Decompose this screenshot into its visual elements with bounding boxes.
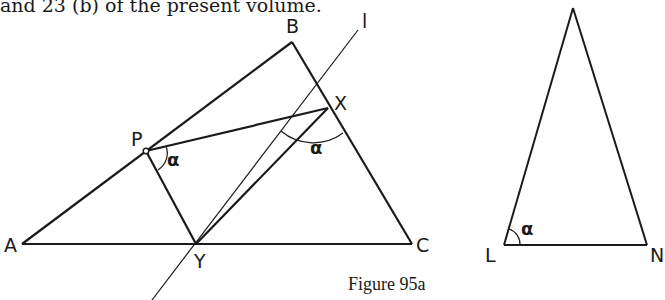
- angle-arc-l: [509, 229, 520, 245]
- label-a: A: [4, 234, 17, 256]
- side-ab: [22, 42, 292, 244]
- label-y: Y: [193, 250, 206, 272]
- point-p-marker: [143, 148, 149, 154]
- label-line-l: l: [362, 10, 367, 32]
- triangle-pxy: [146, 108, 328, 244]
- label-n: N: [650, 244, 664, 266]
- segment-xy: [196, 108, 328, 244]
- alpha-label-x: α: [310, 137, 322, 158]
- label-c: C: [416, 234, 429, 256]
- triangle-lnt: [504, 8, 647, 245]
- label-l: L: [485, 244, 496, 266]
- angle-arc-p: [158, 146, 167, 170]
- triangle-abc: [22, 42, 412, 244]
- alpha-label-l: α: [521, 218, 533, 239]
- side-apex-n: [573, 8, 647, 245]
- label-x: X: [334, 92, 347, 114]
- figure-95a: A B C P X Y l α α L N α: [0, 0, 665, 300]
- label-b: B: [286, 15, 299, 37]
- alpha-label-p: α: [167, 149, 179, 170]
- side-l-apex: [504, 8, 573, 245]
- figure-caption: Figure 95a: [348, 274, 425, 295]
- label-p: P: [131, 128, 142, 150]
